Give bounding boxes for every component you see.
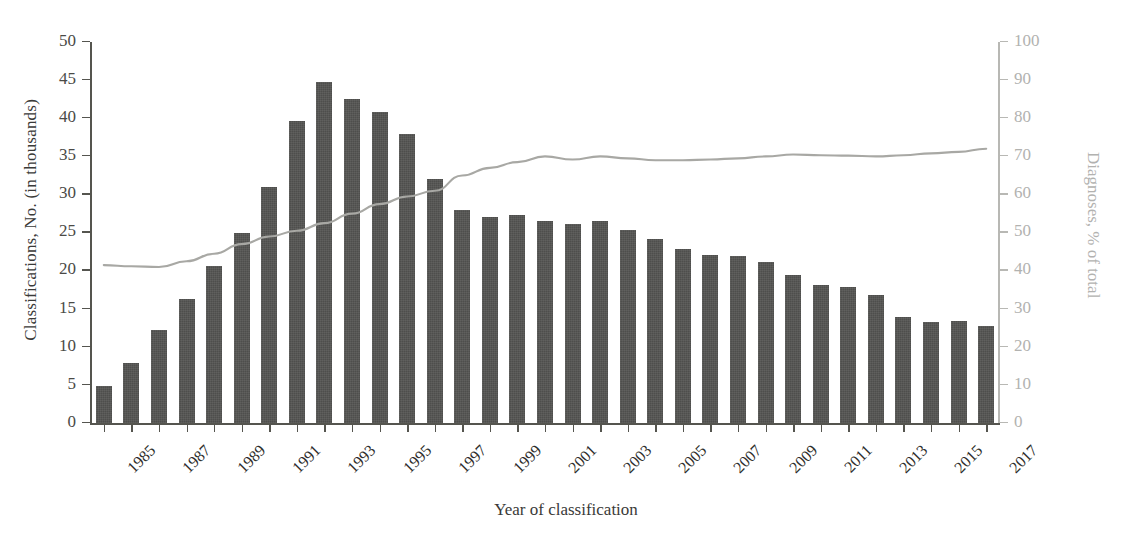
x-tick-label: 2013	[896, 441, 931, 476]
y2-tick-label: 60	[1014, 183, 1031, 203]
x-tick-label: 1993	[344, 441, 379, 476]
y-tick: 45	[82, 79, 90, 80]
y2-tick-label: 20	[1014, 335, 1031, 355]
x-tick-label: 1989	[234, 441, 269, 476]
y-tick: 15	[82, 308, 90, 309]
y-tick: 30	[82, 193, 90, 194]
x-tick-label: 2005	[675, 441, 710, 476]
y2-tick-label: 30	[1014, 297, 1031, 317]
x-tick-label: 1985	[124, 441, 159, 476]
y2-tick: 20	[1000, 346, 1008, 347]
x-tick	[104, 425, 105, 432]
y-tick: 50	[82, 41, 90, 42]
y-tick-label: 30	[59, 183, 76, 203]
y2-tick-label: 100	[1014, 30, 1040, 50]
y2-tick: 90	[1000, 79, 1008, 80]
x-tick-label: 2015	[951, 441, 986, 476]
y2-tick-label: 80	[1014, 106, 1031, 126]
x-tick	[959, 425, 960, 432]
x-axis-title: Year of classification	[0, 500, 1132, 520]
x-tick	[517, 425, 518, 432]
y2-tick: 0	[1000, 422, 1008, 423]
x-tick-label: 2009	[786, 441, 821, 476]
x-tick	[380, 425, 381, 432]
y-tick: 25	[82, 231, 90, 232]
x-tick	[159, 425, 160, 432]
y2-tick: 50	[1000, 231, 1008, 232]
y-tick: 5	[82, 384, 90, 385]
x-tick	[710, 425, 711, 432]
x-tick	[931, 425, 932, 432]
x-tick	[297, 425, 298, 432]
y-tick-label: 45	[59, 68, 76, 88]
x-tick-label: 1987	[179, 441, 214, 476]
y-tick-label: 0	[68, 412, 77, 432]
x-tick	[187, 425, 188, 432]
x-tick	[903, 425, 904, 432]
x-tick-label: 2003	[620, 441, 655, 476]
x-tick	[545, 425, 546, 432]
x-tick	[876, 425, 877, 432]
chart-figure: Classifications, No. (in thousands) Diag…	[0, 0, 1132, 540]
y-tick: 40	[82, 117, 90, 118]
y-tick: 35	[82, 155, 90, 156]
x-tick	[324, 425, 325, 432]
x-tick	[269, 425, 270, 432]
y2-tick-label: 90	[1014, 68, 1031, 88]
x-tick	[986, 425, 987, 432]
x-tick	[738, 425, 739, 432]
line-series	[90, 42, 1000, 425]
y-tick-label: 40	[59, 106, 76, 126]
x-tick	[131, 425, 132, 432]
x-tick	[655, 425, 656, 432]
x-tick	[214, 425, 215, 432]
y-tick-label: 35	[59, 145, 76, 165]
y2-tick-label: 70	[1014, 145, 1031, 165]
y-tick: 0	[82, 422, 90, 423]
x-tick-label: 1991	[289, 441, 324, 476]
y-tick-label: 10	[59, 335, 76, 355]
y2-tick-label: 50	[1014, 221, 1031, 241]
y-tick: 10	[82, 346, 90, 347]
x-tick-label: 2011	[841, 441, 876, 476]
y-tick-label: 25	[59, 221, 76, 241]
x-tick	[683, 425, 684, 432]
y-tick: 20	[82, 269, 90, 270]
x-tick	[352, 425, 353, 432]
y-tick-label: 20	[59, 259, 76, 279]
x-tick	[848, 425, 849, 432]
y-tick-label: 50	[59, 30, 76, 50]
x-tick	[793, 425, 794, 432]
y2-tick: 40	[1000, 269, 1008, 270]
y2-tick: 60	[1000, 193, 1008, 194]
x-tick-label: 1997	[455, 441, 490, 476]
y-axis-right-title: Diagnoses, % of total	[1076, 10, 1110, 440]
x-tick	[490, 425, 491, 432]
x-tick	[407, 425, 408, 432]
x-tick	[766, 425, 767, 432]
x-tick	[600, 425, 601, 432]
diagnoses-line-path	[104, 149, 986, 267]
x-tick	[242, 425, 243, 432]
y2-tick: 30	[1000, 308, 1008, 309]
y2-tick-label: 0	[1014, 412, 1023, 432]
x-tick-label: 1995	[399, 441, 434, 476]
y-tick-label: 15	[59, 297, 76, 317]
y-axis-left-title: Classifications, No. (in thousands)	[14, 0, 48, 440]
x-tick-label: 2007	[730, 441, 765, 476]
x-tick-label: 2017	[1006, 441, 1041, 476]
y2-tick: 10	[1000, 384, 1008, 385]
x-tick	[435, 425, 436, 432]
x-tick	[573, 425, 574, 432]
y-tick-label: 5	[68, 373, 77, 393]
y2-tick: 70	[1000, 155, 1008, 156]
plot-area: 05101520253035404550 0102030405060708090…	[90, 42, 1000, 425]
x-tick-label: 1999	[510, 441, 545, 476]
x-tick	[821, 425, 822, 432]
y2-tick: 100	[1000, 41, 1008, 42]
y2-tick: 80	[1000, 117, 1008, 118]
y2-tick-label: 10	[1014, 373, 1031, 393]
x-tick	[462, 425, 463, 432]
y2-tick-label: 40	[1014, 259, 1031, 279]
x-tick	[628, 425, 629, 432]
